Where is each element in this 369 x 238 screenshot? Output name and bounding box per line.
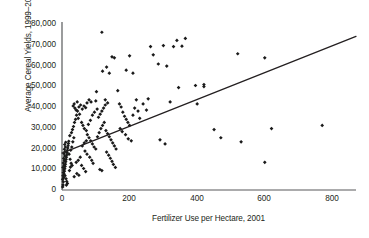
data-point <box>105 65 109 69</box>
x-tick-0: 0 <box>60 194 65 203</box>
data-point <box>109 138 113 142</box>
data-point <box>103 98 107 102</box>
data-point <box>78 155 82 159</box>
data-point <box>202 85 206 89</box>
data-point <box>84 170 88 174</box>
data-point <box>108 156 112 160</box>
data-point <box>172 45 176 49</box>
data-point <box>99 127 103 131</box>
trend-line <box>62 36 356 153</box>
data-point <box>71 140 75 144</box>
data-point <box>126 121 130 125</box>
x-tick-400: 400 <box>190 194 204 203</box>
data-point <box>146 97 150 101</box>
data-point <box>91 142 95 146</box>
data-point <box>104 129 108 133</box>
scatter-chart-figure: Average Cereal Yields, 1999–2003 80,000 … <box>0 0 369 238</box>
data-point <box>158 138 162 142</box>
data-point <box>87 136 91 140</box>
data-point <box>236 52 240 56</box>
data-point <box>124 117 128 121</box>
data-point <box>114 147 118 151</box>
data-point <box>67 139 71 143</box>
data-point <box>71 128 75 132</box>
data-point <box>165 64 169 68</box>
data-point <box>107 71 111 75</box>
data-point <box>133 106 137 110</box>
data-point <box>105 150 109 154</box>
data-point <box>85 133 89 137</box>
data-point <box>70 131 74 135</box>
data-point <box>263 56 267 60</box>
data-point <box>177 86 181 90</box>
data-point <box>78 112 82 116</box>
data-point <box>141 102 145 106</box>
data-point <box>239 140 243 144</box>
data-point <box>101 69 105 73</box>
data-point <box>114 166 118 170</box>
data-point <box>145 108 149 112</box>
data-point <box>263 160 267 164</box>
data-point <box>73 121 77 125</box>
data-points <box>61 30 324 188</box>
data-point <box>175 39 179 43</box>
data-point <box>111 141 115 145</box>
x-tick-600: 600 <box>257 194 271 203</box>
data-point <box>80 107 84 111</box>
data-point <box>156 62 160 66</box>
data-point <box>75 113 79 117</box>
data-point <box>88 155 92 159</box>
data-point <box>162 44 166 48</box>
data-point <box>134 98 138 102</box>
data-point <box>97 115 101 119</box>
data-point <box>129 139 133 143</box>
data-point <box>98 112 102 116</box>
data-point <box>138 116 142 120</box>
data-point <box>180 44 184 48</box>
data-point <box>72 125 76 129</box>
data-point <box>195 102 199 106</box>
data-point <box>100 30 104 34</box>
data-point <box>94 99 98 103</box>
data-point <box>183 37 187 41</box>
data-point <box>124 133 128 137</box>
data-point <box>128 54 132 58</box>
data-point <box>320 124 324 128</box>
data-point <box>85 101 89 105</box>
data-point <box>75 100 79 104</box>
data-point <box>100 109 104 113</box>
data-point <box>95 90 99 94</box>
data-point <box>68 134 72 138</box>
data-point <box>97 131 101 135</box>
x-axis-label: Fertilizer Use per Hectare, 2001 <box>62 214 355 223</box>
data-point <box>68 169 72 173</box>
data-point <box>93 110 97 114</box>
data-point <box>121 110 125 114</box>
data-point <box>126 137 130 141</box>
data-point <box>102 106 106 110</box>
data-point <box>101 124 105 128</box>
data-point <box>80 164 84 168</box>
data-point <box>168 100 172 104</box>
data-point <box>102 121 106 125</box>
data-point <box>113 144 117 148</box>
data-point <box>212 128 216 132</box>
data-point <box>149 45 153 49</box>
data-point <box>82 167 86 171</box>
data-point <box>107 153 111 157</box>
data-point <box>163 142 167 146</box>
data-point <box>270 127 274 131</box>
data-point <box>151 53 155 57</box>
data-point <box>118 102 122 106</box>
x-axis-ticks: 0 200 400 600 800 <box>0 194 369 208</box>
data-point <box>83 149 87 153</box>
data-point <box>72 175 76 179</box>
data-point <box>131 113 135 117</box>
data-point <box>68 157 72 161</box>
data-point <box>123 114 127 118</box>
data-point <box>194 84 198 88</box>
data-point <box>136 109 140 113</box>
x-tick-800: 800 <box>325 194 339 203</box>
data-point <box>219 136 223 140</box>
data-point <box>72 136 76 140</box>
